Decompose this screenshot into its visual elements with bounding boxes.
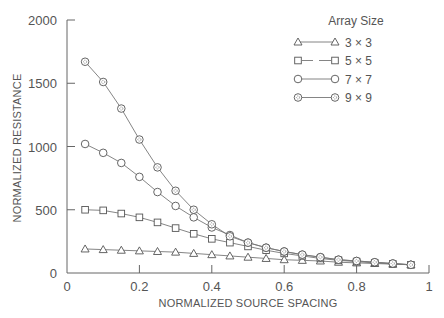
dotted-circle-marker bbox=[331, 94, 339, 102]
dotted-circle-marker bbox=[299, 251, 307, 259]
square-marker bbox=[82, 206, 89, 213]
series-layer bbox=[81, 58, 415, 269]
x-tick-label: 0 bbox=[63, 279, 70, 294]
dotted-circle-marker bbox=[294, 94, 302, 102]
circle-marker bbox=[172, 202, 180, 210]
dotted-circle-marker bbox=[226, 233, 234, 241]
legend-label: 5 × 5 bbox=[345, 54, 372, 68]
series-99 bbox=[81, 58, 414, 269]
square-marker bbox=[190, 230, 197, 237]
x-axis-title: NORMALIZED SOURCE SPACING bbox=[159, 297, 338, 309]
legend-item: 5 × 5 bbox=[295, 54, 373, 68]
triangle-marker bbox=[294, 38, 302, 45]
dotted-circle-marker bbox=[99, 78, 107, 86]
square-marker bbox=[136, 214, 143, 221]
dotted-circle-marker bbox=[244, 239, 252, 247]
dotted-circle-marker bbox=[118, 105, 126, 113]
circle-marker bbox=[136, 173, 144, 181]
dotted-circle-marker bbox=[81, 58, 89, 66]
x-tick-label: 0.6 bbox=[275, 279, 293, 294]
dotted-circle-marker bbox=[136, 136, 144, 144]
dotted-circle-marker bbox=[172, 187, 180, 195]
square-marker bbox=[332, 57, 339, 64]
dotted-circle-marker bbox=[389, 260, 397, 268]
circle-marker bbox=[190, 214, 198, 222]
square-marker bbox=[154, 219, 161, 226]
dotted-circle-marker bbox=[335, 256, 343, 264]
legend-item: 3 × 3 bbox=[294, 36, 372, 50]
dotted-circle-marker bbox=[190, 206, 198, 214]
square-marker bbox=[172, 225, 179, 232]
dotted-circle-marker bbox=[317, 253, 325, 261]
y-axis-title: NORMALIZED RESISTANCE bbox=[11, 74, 23, 223]
legend-title: Array Size bbox=[328, 14, 384, 28]
square-marker bbox=[295, 57, 302, 64]
circle-marker bbox=[154, 188, 162, 196]
y-tick-label: 1500 bbox=[28, 76, 57, 91]
dotted-circle-marker bbox=[280, 248, 288, 256]
legend-item: 7 × 7 bbox=[294, 73, 372, 87]
circle-marker bbox=[294, 75, 302, 83]
circle-marker bbox=[118, 159, 126, 167]
legend-label: 3 × 3 bbox=[345, 36, 372, 50]
x-tick-label: 0.8 bbox=[348, 279, 366, 294]
dotted-circle-marker bbox=[407, 261, 415, 269]
circle-marker bbox=[331, 75, 339, 83]
circle-marker bbox=[99, 149, 107, 157]
dotted-circle-marker bbox=[353, 257, 361, 265]
triangle-marker bbox=[331, 38, 339, 45]
dotted-circle-marker bbox=[208, 220, 216, 228]
legend-label: 7 × 7 bbox=[345, 73, 372, 87]
square-marker bbox=[100, 207, 107, 214]
legend-item: 9 × 9 bbox=[294, 91, 372, 105]
y-tick-label: 0 bbox=[50, 266, 57, 281]
dotted-circle-marker bbox=[262, 244, 270, 252]
square-marker bbox=[118, 210, 125, 217]
legend-label: 9 × 9 bbox=[345, 91, 372, 105]
circle-marker bbox=[81, 140, 89, 148]
triangle-marker bbox=[81, 245, 89, 252]
y-tick-label: 500 bbox=[35, 203, 57, 218]
x-tick-label: 0.2 bbox=[130, 279, 148, 294]
y-tick-label: 1000 bbox=[28, 140, 57, 155]
legend: Array Size3 × 35 × 57 × 79 × 9 bbox=[294, 14, 384, 105]
x-tick-label: 0.4 bbox=[203, 279, 221, 294]
square-marker bbox=[209, 236, 216, 243]
chart: 050010001500200000.20.40.60.81 Array Siz… bbox=[0, 0, 444, 318]
dotted-circle-marker bbox=[154, 164, 162, 172]
y-tick-label: 2000 bbox=[28, 13, 57, 28]
x-tick-label: 1 bbox=[425, 279, 432, 294]
dotted-circle-marker bbox=[371, 258, 379, 266]
